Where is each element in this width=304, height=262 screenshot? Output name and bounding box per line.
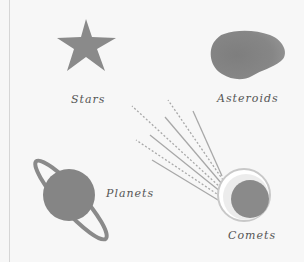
asteroid-icon: [211, 31, 285, 79]
planet-icon: [28, 154, 114, 246]
star-icon: [57, 19, 116, 71]
label-stars: Stars: [71, 93, 105, 106]
illustration: [0, 0, 304, 262]
label-asteroids: Asteroids: [217, 92, 279, 105]
label-planets: Planets: [106, 187, 154, 200]
label-comets: Comets: [228, 229, 276, 242]
comet-icon: [218, 169, 270, 221]
comet-tail: [132, 100, 223, 200]
